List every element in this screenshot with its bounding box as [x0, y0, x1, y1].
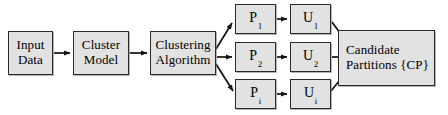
node-utility-u2-symbol: U2 — [303, 48, 318, 66]
edge-algorithm-to-pi — [216, 64, 233, 91]
node-partition-p1-symbol: P1 — [249, 10, 262, 28]
node-partition-p1: P1 — [235, 4, 276, 34]
node-candidate-partitions-line2: Partitions {CP} — [346, 58, 429, 73]
node-utility-u2: U2 — [290, 42, 331, 72]
node-cluster-model: Cluster Model — [73, 31, 129, 75]
node-partition-pi: Pi — [235, 79, 276, 109]
node-utility-u1: U1 — [290, 4, 331, 34]
node-cluster-model-line2: Model — [84, 53, 118, 68]
node-partition-p2-subscript: 2 — [258, 59, 263, 69]
node-utility-u2-subscript: 2 — [314, 59, 319, 69]
node-clustering-algorithm-line2: Algorithm — [155, 53, 210, 68]
node-input-data-line2: Data — [18, 53, 43, 68]
node-input-data-line1: Input — [17, 38, 45, 53]
node-partition-p2: P2 — [235, 42, 276, 72]
node-utility-ui-subscript: i — [315, 96, 318, 106]
node-partition-pi-subscript: i — [259, 96, 262, 106]
node-utility-u1-symbol: U1 — [303, 10, 318, 28]
node-candidate-partitions: Candidate Partitions {CP} — [338, 30, 435, 86]
node-cluster-model-line1: Cluster — [82, 38, 120, 53]
node-partition-p1-subscript: 1 — [258, 21, 263, 31]
diagram-canvas: Input Data Cluster Model Clustering Algo… — [0, 0, 448, 115]
node-candidate-partitions-line1: Candidate — [346, 43, 400, 58]
node-utility-ui: Ui — [290, 79, 331, 109]
node-partition-pi-symbol: Pi — [250, 85, 261, 103]
node-input-data: Input Data — [8, 31, 53, 75]
node-utility-u1-subscript: 1 — [314, 21, 319, 31]
node-utility-ui-symbol: Ui — [304, 85, 317, 103]
node-clustering-algorithm: Clustering Algorithm — [150, 31, 216, 75]
node-partition-p2-symbol: P2 — [249, 48, 262, 66]
node-clustering-algorithm-line1: Clustering — [155, 38, 210, 53]
edge-algorithm-to-p1 — [216, 23, 232, 49]
